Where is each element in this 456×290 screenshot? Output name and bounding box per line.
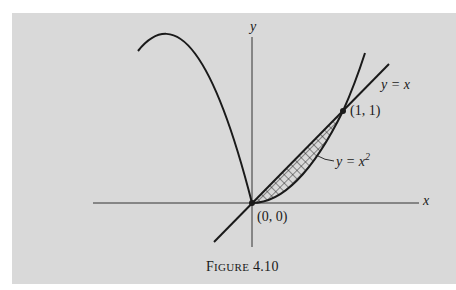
caption-smallcaps: IGURE bbox=[214, 261, 249, 273]
line-label: y = x bbox=[381, 78, 410, 92]
intersection-label: (1, 1) bbox=[350, 104, 380, 118]
origin-label: (0, 0) bbox=[257, 210, 287, 224]
x-axis-label: x bbox=[423, 194, 429, 208]
parabola-label-exponent: 2 bbox=[365, 151, 370, 162]
intersection-point bbox=[340, 108, 346, 114]
parabola-label-base: y = x bbox=[336, 154, 365, 169]
caption-initial: F bbox=[206, 259, 214, 274]
origin-point bbox=[249, 200, 255, 206]
figure-caption: FIGURE 4.10 bbox=[206, 259, 279, 275]
parabola-label-leader bbox=[318, 156, 334, 161]
y-axis-label: y bbox=[250, 20, 256, 34]
caption-number: 4.10 bbox=[253, 259, 279, 274]
parabola-label: y = x2 bbox=[336, 155, 370, 169]
figure-graph bbox=[0, 0, 456, 290]
line-y-equals-x bbox=[214, 64, 389, 242]
